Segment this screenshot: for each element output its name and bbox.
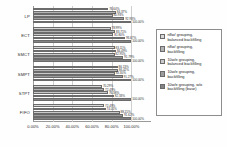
category-label: LP <box>25 13 30 18</box>
legend-swatch-icon <box>160 46 165 51</box>
category-row: SMCT83.11%84.49%82.95%91.79%100.00% <box>33 45 151 64</box>
chart-container: LP76.64%84.37%80.93%92.93%100.00%ECT78.9… <box>0 0 227 147</box>
bar-value-label: 100.00% <box>132 78 144 82</box>
bar-value-label: 100.00% <box>132 20 144 24</box>
legend-label: 10w/e grouping, balanced backfilling <box>167 58 201 67</box>
legend-label: 10w/e grouping, backfilling <box>167 70 195 79</box>
bar <box>33 79 131 82</box>
legend-item[interactable]: n8w/ grouping, backfilling <box>160 45 219 54</box>
x-axis-tick-label: 20.00% <box>46 124 60 129</box>
bar-group: 78.99%83.71%81.80%93.67%100.00% <box>33 25 151 44</box>
bar <box>33 40 131 43</box>
category-label: FIFO <box>20 110 30 115</box>
x-axis-tick-label: 60.00% <box>85 124 99 129</box>
bar-value-label: 100.00% <box>132 59 144 63</box>
legend-label: n8w/ grouping, backfilling <box>167 45 193 54</box>
legend-label: n8w/ grouping, balanced backfilling <box>167 33 201 42</box>
legend-swatch-icon <box>160 59 165 64</box>
legend-swatch-icon <box>160 84 165 89</box>
x-axis-tick-label: 0.00% <box>27 124 38 129</box>
bar <box>33 117 131 120</box>
category-row: SMPT86.13%86.42%83.30%91.27%100.00% <box>33 64 151 83</box>
x-axis: 0.00%20.00%40.00%60.00%80.00%100.00% <box>33 124 151 136</box>
category-row: ECT78.99%83.71%81.80%93.67%100.00% <box>33 25 151 44</box>
x-axis-tick-label: 80.00% <box>105 124 119 129</box>
bar-value-label: 100.00% <box>132 97 144 101</box>
legend-swatch-icon <box>160 71 165 76</box>
bar <box>33 59 131 62</box>
plot-area: LP76.64%84.37%80.93%92.93%100.00%ECT78.9… <box>33 6 151 122</box>
legend-label: 10w/e grouping, w/o backfilling (base) <box>167 83 202 92</box>
bar-value-label: 100.00% <box>132 117 144 121</box>
bar-group: 70.29%72.49%76.38%82.33%100.00% <box>33 83 151 102</box>
legend-item[interactable]: 10w/e grouping, w/o backfilling (base) <box>160 83 219 92</box>
category-row: LP76.64%84.37%80.93%92.93%100.00% <box>33 6 151 25</box>
category-label: STPT <box>19 90 30 95</box>
category-row: FIFO72.49%74.01%88.15%91.62%100.00% <box>33 103 151 122</box>
legend-swatch-icon <box>160 34 165 39</box>
bar-group: 72.49%74.01%88.15%91.62%100.00% <box>33 103 151 122</box>
legend-item[interactable]: 10w/e grouping, backfilling <box>160 70 219 79</box>
x-axis-tick-label: 100.00% <box>123 124 139 129</box>
x-axis-tick-label: 40.00% <box>66 124 80 129</box>
category-label: ECT <box>21 32 30 37</box>
bar-group: 86.13%86.42%83.30%91.27%100.00% <box>33 64 151 83</box>
category-row: STPT70.29%72.49%76.38%82.33%100.00% <box>33 83 151 102</box>
bar-value-label: 100.00% <box>132 39 144 43</box>
bar <box>33 21 131 24</box>
category-label: SMCT <box>18 52 30 57</box>
legend-item[interactable]: 10w/e grouping, balanced backfilling <box>160 58 219 67</box>
bar-group: 83.11%84.49%82.95%91.79%100.00% <box>33 45 151 64</box>
bar-group: 76.64%84.37%80.93%92.93%100.00% <box>33 6 151 25</box>
legend-item[interactable]: n8w/ grouping, balanced backfilling <box>160 33 219 42</box>
chart-legend: n8w/ grouping, balanced backfillingn8w/ … <box>156 29 222 116</box>
bar <box>33 98 131 101</box>
category-label: SMPT <box>18 71 30 76</box>
